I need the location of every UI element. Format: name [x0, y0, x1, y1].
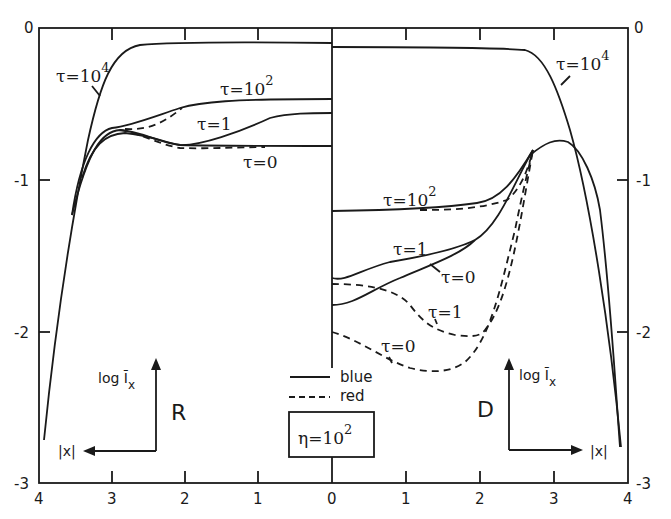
panel-r-curves — [44, 42, 332, 440]
label-d-tau-1e4: τ=104 — [556, 48, 610, 74]
legend: blue red — [289, 368, 372, 405]
panel-d-curves — [332, 47, 621, 447]
x-tick-2: 2 — [180, 490, 190, 508]
y-tick-left-0: 0 — [24, 19, 34, 37]
x-tick-1: 3 — [107, 490, 117, 508]
d-peak-envelope — [530, 141, 620, 447]
label-d-tau-1-dashed: τ=1 — [428, 302, 462, 322]
x-tick-7: 3 — [549, 490, 559, 508]
d-tau-1e2-dashed — [420, 150, 533, 210]
legend-solid-label: blue — [340, 368, 372, 386]
r-tau-1e2-dashed — [125, 108, 182, 129]
y-tick-left-2: -2 — [14, 324, 29, 342]
y-tick-right-3: -3 — [636, 475, 651, 493]
label-d-tau-0-dashed: τ=0 — [381, 336, 415, 356]
label-d-tau-1e2: τ=102 — [383, 184, 437, 210]
y-tick-right-0: 0 — [634, 19, 644, 37]
y-tick-left-1: -1 — [14, 172, 29, 190]
d-inset-up-arrow-icon — [504, 358, 514, 370]
chart: 0 -1 -2 -3 0 -1 -2 -3 4 3 2 1 0 1 2 3 4 — [0, 0, 671, 519]
r-tau-1e4-solid — [44, 42, 332, 440]
label-r-tau-1: τ=1 — [197, 114, 231, 134]
r-inset-left-arrow-icon — [83, 446, 95, 456]
panel-label-r: R — [171, 400, 186, 425]
y-tick-right-2: -2 — [636, 324, 651, 342]
x-tick-4: 0 — [327, 490, 337, 508]
d-inset-xlabel: |x| — [590, 443, 608, 460]
legend-dashed-label: red — [340, 387, 365, 405]
x-tick-5: 1 — [401, 490, 411, 508]
label-r-tau-1e2: τ=102 — [220, 73, 274, 99]
r-inset-ylabel: log Īx — [98, 370, 135, 392]
r-inset-up-arrow-icon — [151, 358, 161, 370]
x-tick-8: 4 — [623, 490, 633, 508]
d-tau-1-solid — [332, 150, 533, 279]
y-tick-right-1: -1 — [636, 172, 651, 190]
label-r-tau-1e4: τ=104 — [56, 60, 110, 86]
label-d-tau-0-solid: τ=0 — [441, 267, 475, 287]
label-d-tau-1-solid: τ=1 — [393, 239, 427, 259]
panel-label-d: D — [477, 397, 494, 422]
d-inset-ylabel: log Īx — [519, 367, 556, 389]
x-tick-6: 2 — [475, 490, 485, 508]
y-tick-left-3: -3 — [14, 475, 29, 493]
label-r-tau-0: τ=0 — [243, 152, 277, 172]
x-tick-3: 1 — [253, 490, 263, 508]
d-inset-right-arrow-icon — [571, 445, 583, 455]
d-tau-1e4-solid — [332, 47, 621, 447]
x-tick-0: 4 — [34, 490, 44, 508]
r-inset-xlabel: |x| — [58, 443, 76, 460]
d-tau-1e2-solid — [332, 150, 533, 211]
